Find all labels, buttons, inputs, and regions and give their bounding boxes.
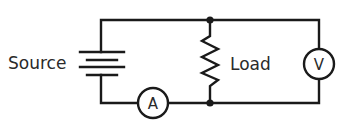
voltmeter-label: V [314, 56, 325, 74]
ammeter-icon: A [138, 88, 168, 118]
resistor-icon [202, 20, 218, 103]
junction-dot-top [206, 16, 213, 23]
circuit-diagram: Source A Load V [0, 0, 348, 129]
junction-dot-bottom [206, 99, 213, 106]
battery-icon [80, 52, 124, 75]
ammeter-label: A [148, 95, 159, 113]
bottom-right-wire [168, 79, 319, 103]
voltmeter-icon: V [304, 49, 334, 79]
load-label: Load [230, 54, 271, 74]
source-label: Source [8, 53, 66, 73]
bottom-left-wire [101, 75, 138, 103]
